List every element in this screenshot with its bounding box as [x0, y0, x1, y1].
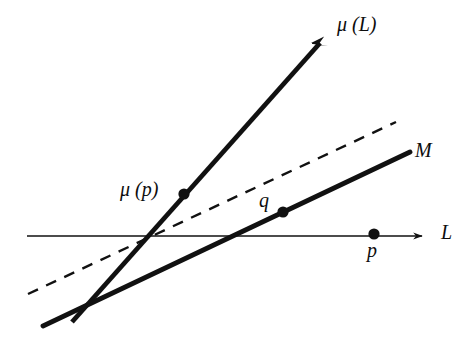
diagram-canvas — [0, 0, 472, 337]
label-mu-of-L: μ (L) — [337, 14, 376, 34]
point-q — [277, 206, 288, 217]
label-line-L: L — [441, 222, 452, 242]
point-p — [368, 228, 379, 239]
label-point-q: q — [259, 190, 269, 210]
label-mu-of-p: μ (p) — [120, 179, 158, 199]
dashed-auxiliary-line — [28, 122, 396, 294]
line-mu-of-L — [72, 43, 320, 322]
label-point-p: p — [367, 240, 377, 260]
geometry-diagram: μ (L) μ (p) M L q p — [0, 0, 472, 337]
label-line-M: M — [415, 140, 432, 160]
line-M — [43, 152, 410, 326]
point-mu-of-p — [178, 188, 189, 199]
